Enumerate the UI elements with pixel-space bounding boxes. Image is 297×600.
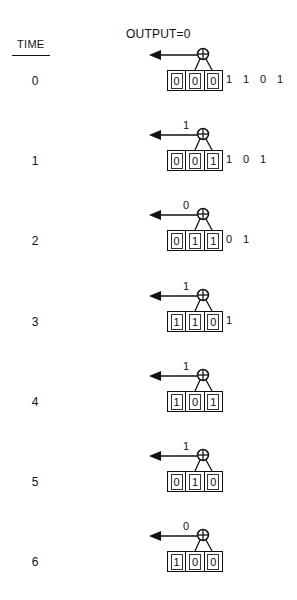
xor-feedback-graphic [0,436,297,516]
time-step: 6 0 1 0 0 [0,516,297,596]
register-cell: 0 [185,392,203,411]
register-bit: 1 [171,554,183,570]
output-arrow-icon [149,291,198,301]
input-bit: 1 [243,233,260,245]
xor-icon [198,209,209,220]
register-cell: 1 [168,392,185,411]
register-cell: 1 [204,392,222,411]
register-bit: 0 [207,474,219,490]
xor-icon [198,129,209,140]
register-bit: 1 [171,314,183,330]
input-bit: 1 [226,153,243,165]
register-cell: 0 [168,231,185,250]
time-step: 0 0 0 0 1101 [0,35,297,115]
shift-register: 0 1 0 [167,471,223,492]
time-step: 5 1 0 1 0 [0,436,297,516]
register-bit: 1 [171,394,183,410]
xor-tap-lines [195,219,212,230]
input-bit: 0 [260,73,277,85]
register-cell: 0 [185,71,203,90]
xor-tap-lines [195,460,212,471]
time-step: 3 1 1 1 0 1 [0,276,297,356]
register-cell: 1 [185,312,203,331]
xor-icon [198,450,209,461]
shift-register: 0 0 0 [167,70,223,91]
shift-register: 0 1 1 [167,230,223,251]
input-bit: 1 [277,73,294,85]
register-cell: 0 [204,312,222,331]
register-bit: 0 [189,554,201,570]
time-step: 2 0 0 1 1 01 [0,195,297,275]
register-cell: 0 [204,472,222,491]
register-bit: 1 [189,233,201,249]
register-bit: 0 [171,474,183,490]
register-bit: 1 [207,153,219,169]
register-bit: 1 [207,394,219,410]
register-bit: 0 [171,233,183,249]
register-cell: 1 [168,312,185,331]
register-bit: 0 [171,153,183,169]
xor-tap-lines [195,540,212,551]
register-bit: 0 [207,73,219,89]
xor-tap-lines [195,380,212,391]
xor-tap-lines [195,139,212,150]
register-bit: 0 [171,73,183,89]
input-stream: 1 [226,314,243,326]
xor-icon [198,290,209,301]
register-cell: 1 [204,151,222,170]
time-step: 4 1 1 0 1 [0,356,297,436]
register-cell: 0 [168,151,185,170]
register-bit: 0 [207,554,219,570]
register-bit: 1 [189,314,201,330]
xor-icon [198,530,209,541]
register-cell: 1 [204,231,222,250]
output-arrow-icon [149,50,198,60]
output-arrow-icon [149,531,198,541]
input-bit: 1 [260,153,277,165]
input-bit: 1 [226,314,243,326]
register-cell: 1 [185,472,203,491]
register-bit: 0 [189,394,201,410]
register-cell: 0 [168,472,185,491]
output-arrow-icon [149,210,198,220]
register-cell: 1 [185,231,203,250]
xor-feedback-graphic [0,516,297,596]
time-step: 1 1 0 0 1 101 [0,115,297,195]
shift-register: 0 0 1 [167,150,223,171]
xor-tap-lines [195,59,212,70]
register-cell: 1 [168,552,185,571]
input-bit: 1 [243,73,260,85]
register-cell: 0 [204,71,222,90]
xor-feedback-graphic [0,356,297,436]
shift-register: 1 1 0 [167,311,223,332]
shift-register: 1 0 1 [167,391,223,412]
register-cell: 0 [185,552,203,571]
output-arrow-icon [149,371,198,381]
output-arrow-icon [149,451,198,461]
register-cell: 0 [204,552,222,571]
input-bit: 0 [226,233,243,245]
input-stream: 01 [226,233,260,245]
register-bit: 1 [207,233,219,249]
xor-icon [198,49,209,60]
register-bit: 0 [207,314,219,330]
input-bit: 0 [243,153,260,165]
output-arrow-icon [149,130,198,140]
register-cell: 0 [168,71,185,90]
register-bit: 0 [189,153,201,169]
register-bit: 0 [189,73,201,89]
input-stream: 1101 [226,73,294,85]
input-stream: 101 [226,153,277,165]
shift-register: 1 0 0 [167,551,223,572]
xor-icon [198,370,209,381]
register-bit: 1 [189,474,201,490]
register-cell: 0 [185,151,203,170]
input-bit: 1 [226,73,243,85]
xor-feedback-graphic [0,276,297,356]
xor-tap-lines [195,300,212,311]
